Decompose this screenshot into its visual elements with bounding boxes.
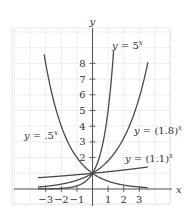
x-tick-label: 3 <box>136 194 142 205</box>
y-tick-label: 5 <box>79 105 85 116</box>
y-tick-label: 3 <box>79 136 85 147</box>
label-y-1-1-x: y = (1.1)x <box>124 152 173 164</box>
y-tick-label: 8 <box>79 58 85 69</box>
grid <box>12 28 171 205</box>
label-y-5-x: y = .5x <box>23 129 58 141</box>
y-tick-label: 7 <box>79 74 85 85</box>
grid-border <box>12 28 170 204</box>
y-axis-label: y <box>89 16 96 27</box>
x-tick-label: 1 <box>105 194 111 205</box>
x-tick-label: −3 <box>38 194 53 205</box>
x-tick-label: −2 <box>54 194 69 205</box>
label-y-1-8-x: y = (1.8)x <box>133 124 182 136</box>
x-axis-label: x <box>176 184 182 195</box>
y-tick-label: 4 <box>79 121 85 132</box>
y-tick-label: 6 <box>79 89 85 100</box>
curve-y-5-x <box>38 51 114 189</box>
x-tick-label: −1 <box>70 194 85 205</box>
exponential-functions-chart: −3−2−11232345678xy y = 5xy = (1.8)xy = (… <box>0 0 190 216</box>
x-tick-label: 2 <box>121 194 127 205</box>
label-y-5-x: y = 5x <box>111 39 143 51</box>
